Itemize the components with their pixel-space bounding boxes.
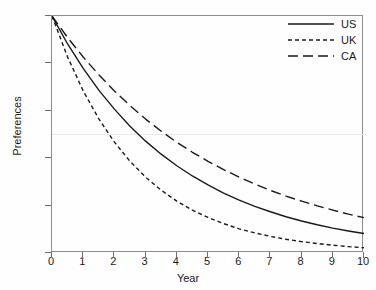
x-axis-title: Year — [0, 272, 376, 284]
x-tick-mark — [207, 252, 208, 258]
legend-label: CA — [341, 51, 356, 61]
x-tick-mark — [113, 252, 114, 258]
x-tick-mark — [82, 252, 83, 258]
x-tick-mark — [238, 252, 239, 258]
x-tick-mark — [176, 252, 177, 258]
x-tick-mark — [332, 252, 333, 258]
x-tick-mark — [269, 252, 270, 258]
chart-figure: 0.2.4.6.81 Preferences 012345678910 Year… — [0, 0, 376, 290]
legend-label: US — [341, 19, 356, 29]
legend-item-uk[interactable]: UK — [288, 32, 356, 48]
legend-item-us[interactable]: US — [288, 16, 356, 32]
legend-swatch-uk — [288, 35, 334, 45]
legend-item-ca[interactable]: CA — [288, 48, 356, 64]
y-axis-title: Preferences — [11, 76, 23, 176]
legend-label: UK — [341, 35, 356, 45]
x-tick-mark — [301, 252, 302, 258]
x-tick-mark — [51, 252, 52, 258]
y-tick-mark — [45, 205, 51, 206]
legend-swatch-ca — [288, 51, 334, 61]
y-tick-mark — [45, 15, 51, 16]
legend-swatch-us — [288, 19, 334, 29]
x-tick-mark — [145, 252, 146, 258]
y-tick-mark — [45, 110, 51, 111]
y-tick-mark — [45, 62, 51, 63]
chart-legend: USUKCA — [288, 16, 356, 64]
y-tick-mark — [45, 157, 51, 158]
x-tick-mark — [363, 252, 364, 258]
